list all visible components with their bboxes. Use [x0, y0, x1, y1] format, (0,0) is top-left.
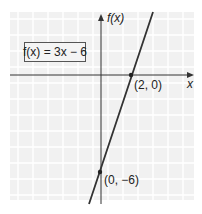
point-label-y-intercept: (0, −6): [104, 174, 139, 186]
equation-box: f(x) = 3x − 6: [24, 42, 86, 62]
y-axis-label: f(x): [107, 12, 124, 24]
equation-text: f(x) = 3x − 6: [23, 45, 87, 59]
point-label-x-intercept: (2, 0): [134, 79, 162, 91]
point-x-intercept: [129, 73, 133, 77]
y-axis-label-text: f(x): [107, 11, 124, 25]
point-y-intercept: [98, 170, 102, 174]
x-axis-label: x: [187, 78, 193, 90]
graph-canvas: [0, 0, 202, 214]
